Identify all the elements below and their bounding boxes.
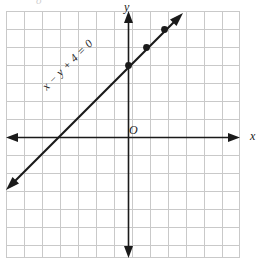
y-axis-label: y — [124, 1, 129, 13]
origin-label: O — [129, 124, 138, 136]
point-1-5 — [143, 44, 150, 51]
coordinate-plane-figure: o — [0, 0, 264, 267]
x-axis-label: x — [250, 130, 255, 142]
cut-off-text: o — [36, 0, 42, 6]
point-0-4 — [125, 62, 132, 69]
point-2-6 — [161, 26, 168, 33]
